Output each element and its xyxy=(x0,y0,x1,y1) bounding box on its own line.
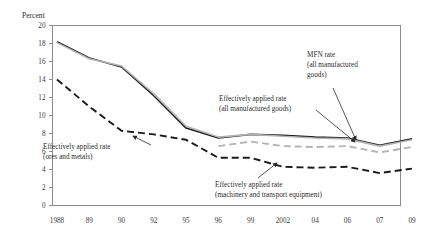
x-axis-tick-label: 89 xyxy=(86,217,94,225)
annotation-mfn-rate-line2: (all manufactured xyxy=(307,61,358,69)
annotation-effectively-applied-machinery-line1: Effectively applied rate xyxy=(215,181,282,189)
y-axis-tick-label: 10 xyxy=(38,112,46,120)
x-axis-tick-label: 96 xyxy=(215,217,223,225)
annotation-effectively-applied-ores-line2: (ores and metals) xyxy=(43,153,93,161)
y-axis-tick-label: 4 xyxy=(42,166,46,174)
line-chart-canvas: Percent 02468101214161820 19888990929596… xyxy=(0,0,425,241)
x-axis-tick-label: 90 xyxy=(118,217,126,225)
x-axis-tick-label: 99 xyxy=(247,217,255,225)
x-axis-ticks: 1988899092959699200204060709 xyxy=(50,217,416,225)
leader-arrow-effectively-applied-ores xyxy=(133,136,151,145)
annotation-effectively-applied-ores: Effectively applied rate (ores and metal… xyxy=(43,143,110,161)
series-line-2 xyxy=(218,142,412,153)
annotation-effectively-applied-manufactured-line2: (all manufactured goods) xyxy=(219,105,292,113)
y-axis-tick-label: 12 xyxy=(38,94,46,102)
y-axis-tick-label: 14 xyxy=(38,76,46,84)
y-axis-tick-label: 8 xyxy=(42,130,46,138)
x-axis-tick-label: 09 xyxy=(408,217,416,225)
x-axis-tick-label: 95 xyxy=(182,217,190,225)
annotation-effectively-applied-ores-line1: Effectively applied rate xyxy=(43,143,110,151)
y-axis-tick-label: 18 xyxy=(38,40,46,48)
x-axis-tick-label: 06 xyxy=(344,217,352,225)
leader-arrow-effectively-applied-machinery xyxy=(258,163,277,178)
y-axis-tick-label: 20 xyxy=(38,22,46,30)
x-axis-tick-label: 07 xyxy=(376,217,384,225)
annotation-effectively-applied-machinery-line2: (machinery and transport equipment) xyxy=(215,191,322,199)
x-axis-tick-label: 2002 xyxy=(276,217,291,225)
annotation-mfn-rate-line3: goods) xyxy=(307,71,327,79)
y-axis-tick-label: 2 xyxy=(42,184,46,192)
annotation-effectively-applied-machinery: Effectively applied rate (machinery and … xyxy=(215,181,322,199)
annotation-effectively-applied-manufactured: Effectively applied rate (all manufactur… xyxy=(219,95,292,113)
annotation-effectively-applied-manufactured-line1: Effectively applied rate xyxy=(219,95,286,103)
x-axis-tick-label: 92 xyxy=(150,217,158,225)
y-axis-tick-label: 16 xyxy=(38,58,46,66)
y-axis-ticks: 02468101214161820 xyxy=(38,22,52,210)
plot-area-border xyxy=(53,26,401,206)
x-axis-tick-label: 1988 xyxy=(50,217,65,225)
y-axis-tick-label: 0 xyxy=(42,202,46,210)
chart-figure: Percent 02468101214161820 19888990929596… xyxy=(0,0,425,241)
annotation-mfn-rate: MFN rate (all manufactured goods) xyxy=(307,51,358,79)
series-line-0 xyxy=(57,42,412,146)
annotation-mfn-rate-line1: MFN rate xyxy=(307,51,335,59)
leader-arrow-mfn-rate xyxy=(333,88,356,140)
x-axis-tick-label: 04 xyxy=(312,217,320,225)
series-line-3 xyxy=(57,80,412,174)
y-axis-unit-label: Percent xyxy=(22,11,46,20)
